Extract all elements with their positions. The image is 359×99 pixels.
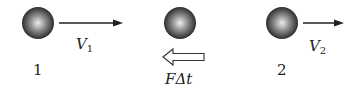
velocity-2-arrow-icon — [303, 20, 344, 27]
v1-symbol: V — [76, 35, 87, 53]
ball-1-label: 1 — [33, 63, 43, 78]
velocity-1-label: V1 — [76, 37, 93, 54]
ball-1-icon — [22, 7, 54, 39]
v2-symbol: V — [309, 37, 320, 55]
velocity-1-arrow-icon — [59, 20, 123, 27]
ball-2-label: 2 — [277, 63, 287, 78]
v2-subscript: 2 — [320, 45, 326, 56]
velocity-2-label: V2 — [309, 39, 326, 56]
impulse-label: FΔt — [165, 72, 192, 87]
v1-subscript: 1 — [87, 43, 93, 54]
collision-diagram: V1 V2 1 2 FΔt — [0, 0, 359, 99]
impulse-hollow-arrow-icon — [163, 49, 204, 65]
ball-2-icon — [266, 7, 298, 39]
ball-middle-icon — [164, 7, 196, 39]
